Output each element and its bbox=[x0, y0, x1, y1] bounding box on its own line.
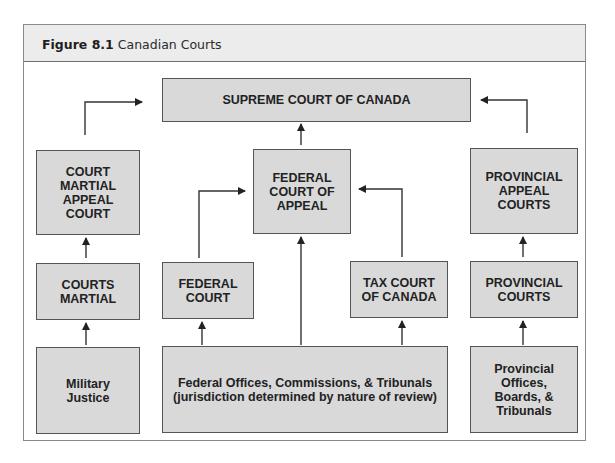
node-courts-martial: COURTS MARTIAL bbox=[36, 263, 140, 320]
node-military-justice: Military Justice bbox=[36, 347, 140, 434]
node-supreme-court: SUPREME COURT OF CANADA bbox=[162, 78, 471, 122]
node-court-martial-appeal-court: COURT MARTIAL APPEAL COURT bbox=[36, 150, 140, 235]
figure-header: Figure 8.1Canadian Courts bbox=[24, 25, 585, 62]
figure-caption: Canadian Courts bbox=[118, 37, 222, 52]
node-provincial-courts: PROVINCIAL COURTS bbox=[470, 261, 578, 318]
node-provincial-appeal-courts: PROVINCIAL APPEAL COURTS bbox=[470, 148, 578, 234]
node-federal-offices: Federal Offices, Commissions, & Tribunal… bbox=[162, 346, 448, 433]
node-tax-court-of-canada: TAX COURT OF CANADA bbox=[350, 261, 448, 318]
figure-number: Figure 8.1 bbox=[42, 37, 114, 52]
node-federal-court-of-appeal: FEDERAL COURT OF APPEAL bbox=[253, 149, 351, 234]
node-federal-court: FEDERAL COURT bbox=[162, 262, 254, 319]
figure-title: Figure 8.1Canadian Courts bbox=[42, 37, 222, 52]
node-provincial-offices: Provincial Offices, Boards, & Tribunals bbox=[470, 346, 578, 433]
